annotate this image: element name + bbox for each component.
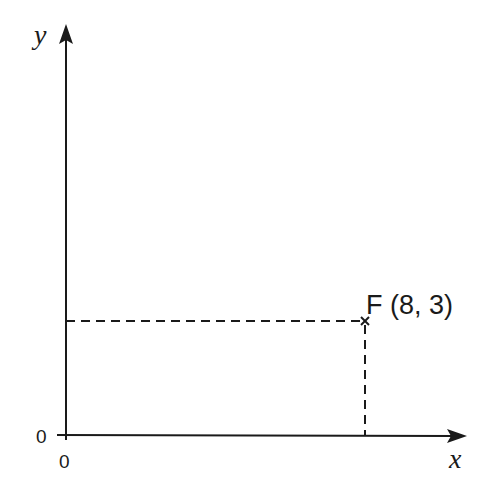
y-origin-label: 0 — [36, 426, 47, 447]
x-axis — [57, 429, 467, 443]
x-origin-label: 0 — [59, 451, 70, 472]
y-axis-label: y — [31, 19, 47, 50]
y-axis — [59, 24, 73, 440]
x-axis-label: x — [448, 443, 462, 474]
point-f-label: F (8, 3) — [366, 290, 453, 320]
coordinate-diagram: F (8, 3) y x 0 0 — [0, 0, 488, 499]
